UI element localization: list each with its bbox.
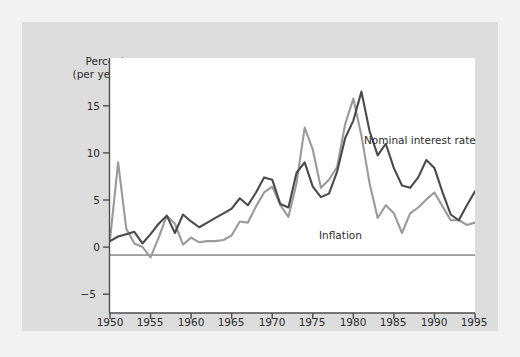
x-tick-label-1960: 1960 [171,316,211,328]
chart-canvas [110,58,475,313]
plot-area [110,58,475,313]
y-tick-label-5: 5 [70,194,100,206]
x-tick-label-1970: 1970 [252,316,292,328]
x-tick-label-1965: 1965 [211,316,251,328]
figure-panel: Percent (per year) 15 10 5 0 −5 1950 195… [22,22,498,331]
x-tick-label-1985: 1985 [373,316,413,328]
series-line-inflation [110,99,475,258]
y-tick-label-minus5: −5 [66,288,96,300]
y-tick-label-10: 10 [70,147,100,159]
series-label-inflation: Inflation [319,229,362,241]
series-label-nominal: Nominal interest rate [364,134,476,146]
x-tick-label-1980: 1980 [333,316,373,328]
x-tick-label-1975: 1975 [292,316,332,328]
y-tick-label-15: 15 [70,100,100,112]
x-tick-label-1950: 1950 [90,316,130,328]
x-tick-label-1995: 1995 [454,316,494,328]
x-tick-label-1955: 1955 [130,316,170,328]
x-tick-label-1990: 1990 [414,316,454,328]
figure-root: Percent (per year) 15 10 5 0 −5 1950 195… [0,0,520,357]
y-tick-label-0: 0 [70,241,100,253]
